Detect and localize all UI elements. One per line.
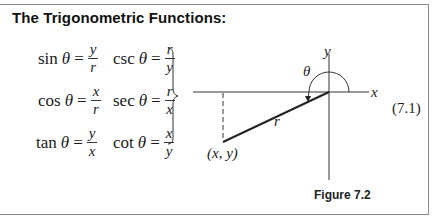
figure-caption: Figure 7.2 [314,188,371,202]
y-axis-label: y [324,43,331,60]
x-axis-label: x [371,84,378,101]
radius-label: r [274,113,280,130]
point-label: (x, y) [207,145,238,162]
equation-number: (7.1) [392,100,421,117]
trig-diagram [0,0,448,217]
right-brace-icon [168,48,178,144]
angle-label: θ [303,63,310,80]
